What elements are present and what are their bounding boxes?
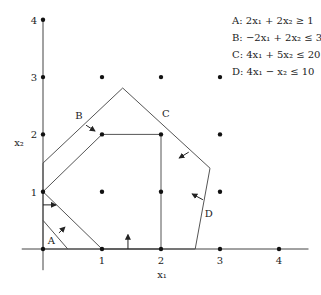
lattice-point xyxy=(159,247,163,251)
legend-entry-d: D: 4x₁ − x₂ ≤ 10 xyxy=(232,66,314,77)
legend-entry-a: A: 2x₁ + 2x₂ ≥ 1 xyxy=(231,15,314,26)
lattice-point xyxy=(159,75,163,79)
x-tick-labels: 1 2 3 4 xyxy=(99,255,282,266)
integer-program-diagram: 1 2 3 4 1 2 3 4 x₁ x₂ A B C D A: 2x₁ + 2… xyxy=(0,0,321,295)
x-tick-label: 4 xyxy=(276,255,282,266)
legend-entry-c: C: 4x₁ + 5x₂ ≤ 20 xyxy=(232,49,320,60)
lattice-point xyxy=(100,75,104,79)
constraint-label-c: C xyxy=(162,108,170,119)
x-axis-label: x₁ xyxy=(157,269,167,280)
direction-arrow-b xyxy=(86,125,95,131)
lattice-point xyxy=(277,247,281,251)
legend-entry-b: B: −2x₁ + 2x₂ ≤ 3 xyxy=(232,32,321,43)
constraint-label-d: D xyxy=(205,208,213,219)
direction-arrows xyxy=(43,125,203,249)
legend: A: 2x₁ + 2x₂ ≥ 1 B: −2x₁ + 2x₂ ≤ 3 C: 4x… xyxy=(231,15,321,77)
lattice-point xyxy=(41,18,45,22)
direction-arrow-d xyxy=(192,194,203,200)
constraint-label-a: A xyxy=(47,235,56,246)
y-tick-label: 3 xyxy=(31,72,37,83)
lattice-point xyxy=(218,190,222,194)
lattice-point xyxy=(218,132,222,136)
y-tick-label: 1 xyxy=(31,187,37,198)
constraint-labels: A B C D xyxy=(47,108,213,246)
lattice-point xyxy=(218,247,222,251)
direction-arrow-a xyxy=(59,227,65,233)
direction-arrow-c xyxy=(179,152,188,158)
constraint-label-b: B xyxy=(75,110,82,121)
lattice-point xyxy=(100,190,104,194)
x-tick-label: 1 xyxy=(99,255,105,266)
lattice-point xyxy=(159,190,163,194)
y-tick-label: 2 xyxy=(31,129,37,140)
lattice-point xyxy=(100,132,104,136)
x-tick-label: 3 xyxy=(217,255,223,266)
y-tick-label: 4 xyxy=(31,15,37,26)
lattice-point xyxy=(100,247,104,251)
lattice-point xyxy=(41,75,45,79)
x-tick-label: 2 xyxy=(158,255,164,266)
lp-relaxation-region xyxy=(43,88,210,249)
y-tick-labels: 1 2 3 4 xyxy=(31,15,37,198)
lattice-point xyxy=(41,190,45,194)
lattice-point xyxy=(218,75,222,79)
y-axis-label: x₂ xyxy=(14,137,24,148)
lattice-point xyxy=(159,132,163,136)
regions xyxy=(43,88,210,249)
lattice-point xyxy=(41,247,45,251)
lattice-point xyxy=(41,132,45,136)
